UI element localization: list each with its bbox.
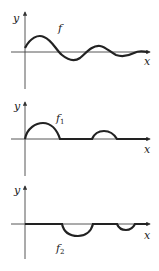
curve-label-text: f [58, 22, 62, 35]
curve-label-subscript: 1 [60, 118, 64, 126]
panel-f [11, 12, 150, 89]
diagram-canvas [0, 0, 159, 271]
panel-f2 [11, 186, 150, 259]
panel-f1 [11, 102, 150, 176]
x-axis-label: x [144, 230, 150, 241]
x-axis-label: x [144, 56, 150, 67]
y-axis-label: y [13, 13, 19, 24]
curve-f1 [25, 123, 148, 139]
curve-f [25, 36, 148, 60]
curve-f2 [25, 224, 148, 236]
curve-label-f: f [58, 23, 62, 34]
curve-label-f1: f1 [56, 113, 65, 126]
x-axis-label: x [144, 144, 150, 155]
y-axis-label: y [14, 185, 20, 196]
y-axis-label: y [14, 101, 20, 112]
curve-label-subscript: 2 [60, 248, 64, 256]
curve-label-f2: f2 [56, 243, 65, 256]
